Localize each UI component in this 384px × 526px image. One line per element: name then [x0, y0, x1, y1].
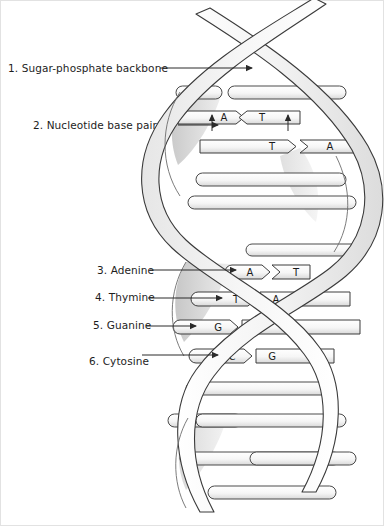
svg-text:T: T: [292, 267, 300, 278]
dna-double-helix-illustration: A T T A A T T A G C C G: [0, 0, 384, 526]
label-thymine: 4. Thymine: [95, 291, 155, 303]
svg-text:G: G: [268, 351, 276, 362]
label-sugar-phosphate-backbone: 1. Sugar-phosphate backbone: [8, 62, 168, 74]
svg-text:T: T: [268, 141, 276, 152]
rung: [246, 244, 358, 256]
rung: [188, 196, 356, 209]
base-pair-a-t-lower: A T: [225, 265, 310, 279]
base-adenine: A: [247, 267, 254, 278]
base-pair-a-t-upper: A T: [178, 111, 300, 124]
svg-text:A: A: [327, 141, 334, 152]
base-thymine-letter: T: [258, 112, 266, 123]
base-pair-t-a-upper: T A: [200, 140, 356, 153]
label-guanine: 5. Guanine: [93, 319, 151, 331]
base-guanine: G: [214, 322, 222, 333]
label-nucleotide-base-pair: 2. Nucleotide base pair: [33, 119, 157, 131]
base-adenine-letter: A: [221, 112, 228, 123]
rung: [250, 452, 356, 465]
label-cytosine: 6. Cytosine: [89, 355, 149, 367]
rung: [196, 173, 346, 186]
label-adenine: 3. Adenine: [97, 264, 154, 276]
